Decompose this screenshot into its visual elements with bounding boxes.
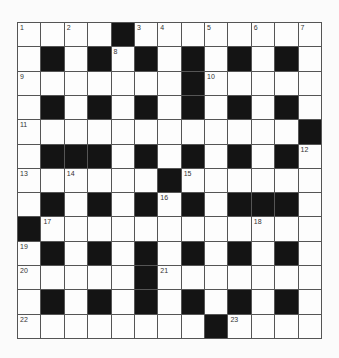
answer-cell[interactable]: 23 [228,315,250,338]
answer-cell[interactable] [275,217,297,240]
answer-cell[interactable] [299,266,321,289]
answer-cell[interactable] [88,23,110,46]
answer-cell[interactable]: 16 [158,193,180,216]
answer-cell[interactable] [228,169,250,192]
answer-cell[interactable] [205,145,227,168]
answer-cell[interactable] [252,315,274,338]
answer-cell[interactable]: 19 [18,242,40,265]
answer-cell[interactable] [41,266,63,289]
answer-cell[interactable] [112,242,134,265]
answer-cell[interactable] [299,72,321,95]
answer-cell[interactable] [252,290,274,313]
answer-cell[interactable] [158,47,180,70]
answer-cell[interactable] [182,23,204,46]
answer-cell[interactable] [158,145,180,168]
answer-cell[interactable] [158,315,180,338]
answer-cell[interactable] [299,169,321,192]
answer-cell[interactable] [65,315,87,338]
answer-cell[interactable] [228,120,250,143]
answer-cell[interactable] [41,169,63,192]
answer-cell[interactable] [299,242,321,265]
answer-cell[interactable] [228,266,250,289]
answer-cell[interactable]: 17 [41,217,63,240]
answer-cell[interactable] [205,266,227,289]
answer-cell[interactable] [112,217,134,240]
answer-cell[interactable] [65,290,87,313]
answer-cell[interactable]: 13 [18,169,40,192]
answer-cell[interactable] [205,193,227,216]
answer-cell[interactable] [65,96,87,119]
answer-cell[interactable] [299,315,321,338]
answer-cell[interactable]: 7 [299,23,321,46]
answer-cell[interactable] [299,47,321,70]
answer-cell[interactable]: 8 [112,47,134,70]
answer-cell[interactable] [135,120,157,143]
answer-cell[interactable] [228,23,250,46]
answer-cell[interactable] [112,145,134,168]
answer-cell[interactable] [275,315,297,338]
answer-cell[interactable] [158,96,180,119]
answer-cell[interactable] [112,290,134,313]
answer-cell[interactable]: 10 [205,72,227,95]
answer-cell[interactable]: 20 [18,266,40,289]
answer-cell[interactable] [65,47,87,70]
answer-cell[interactable] [112,315,134,338]
answer-cell[interactable] [88,169,110,192]
answer-cell[interactable] [275,266,297,289]
answer-cell[interactable] [252,242,274,265]
answer-cell[interactable] [135,217,157,240]
answer-cell[interactable] [88,266,110,289]
answer-cell[interactable] [228,217,250,240]
answer-cell[interactable] [158,217,180,240]
answer-cell[interactable] [252,169,274,192]
answer-cell[interactable] [41,72,63,95]
answer-cell[interactable] [205,217,227,240]
answer-cell[interactable] [112,169,134,192]
answer-cell[interactable] [158,242,180,265]
answer-cell[interactable] [158,72,180,95]
answer-cell[interactable] [112,193,134,216]
answer-cell[interactable]: 4 [158,23,180,46]
answer-cell[interactable] [158,120,180,143]
answer-cell[interactable]: 21 [158,266,180,289]
answer-cell[interactable] [299,96,321,119]
answer-cell[interactable] [88,217,110,240]
answer-cell[interactable] [205,96,227,119]
answer-cell[interactable] [65,72,87,95]
answer-cell[interactable] [252,145,274,168]
answer-cell[interactable] [299,217,321,240]
answer-cell[interactable] [88,120,110,143]
answer-cell[interactable] [205,242,227,265]
answer-cell[interactable] [275,23,297,46]
answer-cell[interactable] [275,169,297,192]
answer-cell[interactable] [252,120,274,143]
answer-cell[interactable] [252,47,274,70]
answer-cell[interactable] [135,169,157,192]
answer-cell[interactable] [182,315,204,338]
answer-cell[interactable] [18,47,40,70]
answer-cell[interactable]: 22 [18,315,40,338]
answer-cell[interactable] [18,145,40,168]
answer-cell[interactable]: 11 [18,120,40,143]
answer-cell[interactable] [252,266,274,289]
answer-cell[interactable]: 1 [18,23,40,46]
answer-cell[interactable] [112,72,134,95]
answer-cell[interactable] [205,290,227,313]
answer-cell[interactable] [18,96,40,119]
answer-cell[interactable] [18,290,40,313]
answer-cell[interactable]: 18 [252,217,274,240]
answer-cell[interactable] [65,193,87,216]
answer-cell[interactable] [182,266,204,289]
answer-cell[interactable] [88,315,110,338]
answer-cell[interactable]: 3 [135,23,157,46]
answer-cell[interactable]: 14 [65,169,87,192]
answer-cell[interactable] [65,266,87,289]
answer-cell[interactable] [205,47,227,70]
answer-cell[interactable] [112,266,134,289]
answer-cell[interactable] [65,217,87,240]
answer-cell[interactable] [112,120,134,143]
answer-cell[interactable]: 5 [205,23,227,46]
answer-cell[interactable] [252,96,274,119]
answer-cell[interactable] [299,193,321,216]
answer-cell[interactable]: 2 [65,23,87,46]
